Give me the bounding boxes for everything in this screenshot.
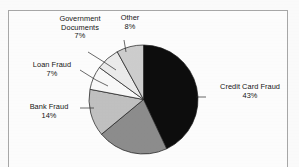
slice-percent-other: 8%: [108, 23, 152, 32]
slice-percent-bank-fraud: 14%: [14, 112, 84, 121]
slice-percent-credit-card-fraud: 43%: [206, 92, 294, 101]
slice-label-loan-fraud-line1: Loan Fraud: [33, 60, 71, 69]
slice-label-other: Other 8%: [108, 14, 152, 31]
slice-percent-government-documents: 7%: [44, 32, 116, 41]
slice-label-bank-fraud-line1: Bank Fraud: [30, 102, 69, 111]
slice-label-other-line1: Other: [121, 13, 140, 22]
slice-label-credit-card-fraud-line1: Credit Card Fraud: [220, 82, 280, 91]
chart-screenshot: Government Documents 7% Other 8% Loan Fr…: [0, 0, 299, 167]
slice-label-government-documents: Government Documents 7%: [44, 15, 116, 41]
slice-label-loan-fraud: Loan Fraud 7%: [18, 61, 86, 78]
pie-slice-group: [89, 45, 198, 154]
slice-label-credit-card-fraud: Credit Card Fraud 43%: [206, 83, 294, 100]
slice-percent-loan-fraud: 7%: [18, 70, 86, 79]
slice-label-bank-fraud: Bank Fraud 14%: [14, 103, 84, 120]
